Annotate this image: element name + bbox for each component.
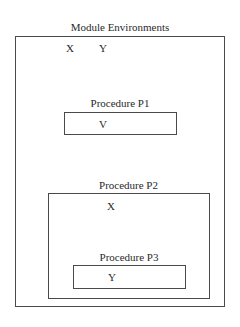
procedure-p1-box	[64, 112, 177, 135]
procedure-p3-box	[73, 265, 186, 289]
procedure-p3-title: Procedure P3	[73, 251, 185, 263]
procedure-p2-variable-x: X	[107, 200, 115, 212]
procedure-p1-title: Procedure P1	[64, 97, 176, 109]
procedure-p2-title: Procedure P2	[48, 179, 209, 191]
module-title: Module Environments	[64, 21, 176, 33]
procedure-p3-variable-y: Y	[108, 271, 116, 283]
procedure-p1-variable-v: V	[99, 118, 107, 130]
module-variable-x: X	[66, 42, 74, 54]
module-variable-y: Y	[99, 42, 107, 54]
